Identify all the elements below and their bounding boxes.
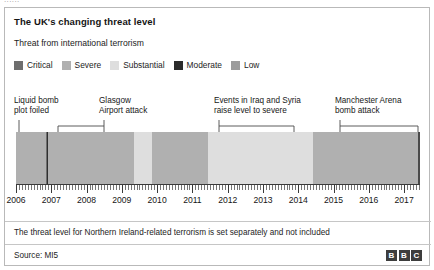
axis-tick-minor [342,185,343,190]
axis-tick-minor [166,185,167,190]
legend-item-critical: Critical [14,60,53,70]
legend: CriticalSevereSubstantialModerateLow [14,60,268,70]
axis-tick-minor [198,185,199,190]
axis-tick-minor [328,185,329,190]
axis-tick-minor [219,185,220,190]
axis-tick-minor [95,185,96,190]
axis-tick-minor [213,185,214,190]
axis-tick-minor [357,185,358,190]
axis-tick-minor [239,185,240,190]
axis-tick-minor [63,185,64,190]
axis-tick-minor [242,185,243,190]
footnote-divider [5,221,431,222]
axis-tick-minor [257,185,258,190]
annotation-line-1: Manchester Arena [335,96,401,106]
axis-tick-minor [19,185,20,190]
axis-tick-major [263,185,264,193]
bbc-logo: BBC [385,250,423,261]
axis-tick-minor [75,185,76,190]
axis-tick-minor [375,185,376,190]
legend-item-substantial: Substantial [110,60,164,70]
axis-label-2012: 2012 [218,195,237,205]
axis-tick-minor [160,185,161,190]
axis-tick-minor [266,185,267,190]
axis-tick-minor [307,185,308,190]
axis-label-2014: 2014 [289,195,308,205]
axis-tick-minor [163,185,164,190]
source-divider [5,244,431,245]
axis-tick-minor [225,185,226,190]
axis-tick-minor [301,185,302,190]
axis-tick-minor [154,185,155,190]
axis-tick-minor [204,185,205,190]
axis-tick-minor [72,185,73,190]
axis-tick-minor [119,185,120,190]
axis-tick-major [16,185,17,193]
plot-right-edge [418,132,420,184]
axis-tick-minor [313,185,314,190]
legend-swatch-substantial-icon [110,61,119,70]
axis-tick-minor [251,185,252,190]
axis-tick-minor [398,185,399,190]
threat-level-timeline-bar [16,132,420,184]
axis-tick-minor [148,185,149,190]
axis-tick-minor [57,185,58,190]
axis-tick-minor [237,185,238,190]
axis-tick-minor [128,185,129,190]
axis-label-2009: 2009 [112,195,131,205]
annotation-iraq-syria-raise-to-severe: Events in Iraq and Syriaraise level to s… [214,96,301,116]
legend-label: Critical [27,60,53,70]
annotation-line-1: Events in Iraq and Syria [214,96,301,106]
axis-tick-minor [78,185,79,190]
axis-label-2015: 2015 [324,195,343,205]
axis-tick-minor [284,185,285,190]
x-axis-labels: 2006200720082009201020112012201320142015… [16,195,420,208]
axis-tick-minor [178,185,179,190]
axis-tick-minor [25,185,26,190]
annotation-liquid-bomb-plot-foiled: Liquid bombplot foiled [14,96,59,116]
axis-tick-minor [413,185,414,190]
legend-label: Substantial [123,60,164,70]
axis-tick-minor [184,185,185,190]
bbc-logo-block-1: B [399,250,410,261]
axis-tick-minor [304,185,305,190]
axis-tick-minor [131,185,132,190]
axis-tick-minor [407,185,408,190]
axis-tick-minor [389,185,390,190]
axis-tick-minor [42,185,43,190]
axis-tick-minor [272,185,273,190]
axis-label-2010: 2010 [148,195,167,205]
threat-band-substantial [208,132,313,184]
legend-label: Severe [75,60,102,70]
axis-tick-minor [216,185,217,190]
axis-label-2007: 2007 [42,195,61,205]
axis-tick-minor [48,185,49,190]
axis-tick-minor [310,185,311,190]
axis-tick-minor [60,185,61,190]
bbc-logo-block-2: C [411,250,422,261]
axis-tick-minor [187,185,188,190]
axis-tick-minor [287,185,288,190]
axis-tick-minor [419,185,420,190]
axis-tick-minor [84,185,85,190]
axis-tick-minor [189,185,190,190]
axis-tick-minor [116,185,117,190]
cropped-text: ...... [4,0,20,4]
legend-item-moderate: Moderate [174,60,222,70]
annotation-line-1: Liquid bomb [14,96,59,106]
source-label: Source: MI5 [14,251,58,260]
axis-tick-minor [145,185,146,190]
annotation-line-2: raise level to severe [214,106,301,116]
annotation-line-2: Airport attack [99,106,147,116]
axis-tick-minor [175,185,176,190]
axis-tick-minor [222,185,223,190]
axis-tick-minor [92,185,93,190]
axis-tick-minor [139,185,140,190]
annotation-line-2: bomb attack [335,106,401,116]
axis-tick-minor [392,185,393,190]
legend-label: Low [244,60,259,70]
axis-tick-major [369,185,370,193]
axis-tick-major [192,185,193,193]
axis-tick-minor [195,185,196,190]
axis-tick-minor [234,185,235,190]
